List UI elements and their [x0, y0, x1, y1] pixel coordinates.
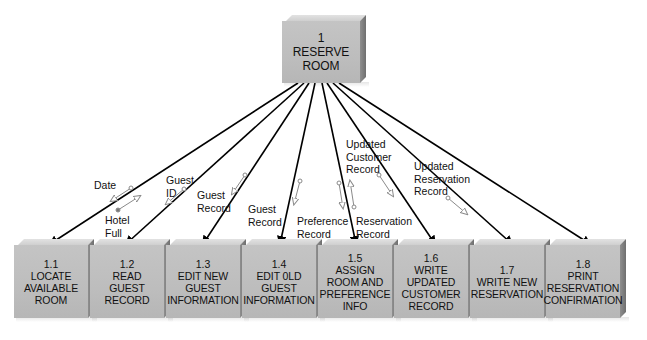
- module-1-3-edit-new-guest-information[interactable]: 1.3 EDIT NEW GUEST INFORMATION: [166, 239, 246, 318]
- couple-reservation-record: [350, 181, 356, 209]
- module-1-8-print-reservation-confirmation[interactable]: 1.8 PRINT RESERVATION CONFIRMATION: [546, 239, 626, 318]
- couple-guest-record-1-4: [294, 179, 302, 204]
- couple-label-updated-reservation-record: Updated Reservation Record: [414, 160, 470, 198]
- couple-label-guest-record-1-3: Guest Record: [197, 189, 231, 214]
- module-number: 1.5: [320, 252, 391, 264]
- module-name: LOCATE AVAILABLE ROOM: [24, 270, 78, 306]
- couple-guest-record-1-3: [232, 173, 247, 194]
- couple-label-updated-customer-record: Updated Customer Record: [346, 138, 392, 176]
- module-name: WRITE NEW RESERVATION: [471, 276, 543, 300]
- couple-preference-record: [337, 181, 343, 208]
- module-1-6-write-updated-customer-record[interactable]: 1.6 WRITE UPDATED CUSTOMER RECORD: [394, 239, 474, 318]
- couple-label-reservation-record: Reservation Record: [356, 215, 412, 240]
- module-number: 1.6: [401, 252, 460, 264]
- module-number: 1.3: [167, 258, 239, 270]
- couple-updated-reservation-record: [446, 196, 467, 214]
- module-name: WRITE UPDATED CUSTOMER RECORD: [401, 264, 460, 312]
- module-number: 1.1: [24, 258, 78, 270]
- module-name: EDIT 0LD GUEST INFORMATION: [243, 270, 315, 306]
- module-1-2-read-guest-record[interactable]: 1.2 READ GUEST RECORD: [90, 239, 170, 318]
- module-number: 1.4: [243, 258, 315, 270]
- module-number: 1.2: [105, 258, 150, 270]
- module-1-reserve-room[interactable]: 1 RESERVE ROOM: [282, 15, 366, 83]
- module-1-5-assign-room-and-preference-info[interactable]: 1.5 ASSIGN ROOM AND PREFERENCE INFO: [318, 239, 398, 318]
- module-name: RESERVE ROOM: [293, 45, 349, 73]
- module-1-1-locate-available-room[interactable]: 1.1 LOCATE AVAILABLE ROOM: [14, 239, 94, 318]
- couple-label-date: Date: [94, 179, 116, 192]
- module-number: 1.7: [471, 264, 543, 276]
- couple-label-hotel-full: Hotel Full: [105, 214, 130, 239]
- couple-label-guest-record-1-4: Guest Record: [248, 203, 282, 228]
- couple-label-guest-id: Guest ID: [166, 174, 194, 199]
- module-number: 1: [293, 31, 349, 45]
- module-1-4-edit-old-guest-information[interactable]: 1.4 EDIT 0LD GUEST INFORMATION: [242, 239, 322, 318]
- module-1-7-write-new-reservation[interactable]: 1.7 WRITE NEW RESERVATION: [470, 239, 550, 318]
- couple-label-preference-record: Preference Record: [297, 215, 348, 240]
- module-name: PRINT RESERVATION CONFIRMATION: [543, 270, 622, 306]
- module-number: 1.8: [543, 258, 622, 270]
- module-name: EDIT NEW GUEST INFORMATION: [167, 270, 239, 306]
- module-name: ASSIGN ROOM AND PREFERENCE INFO: [320, 264, 391, 312]
- module-name: READ GUEST RECORD: [105, 270, 150, 306]
